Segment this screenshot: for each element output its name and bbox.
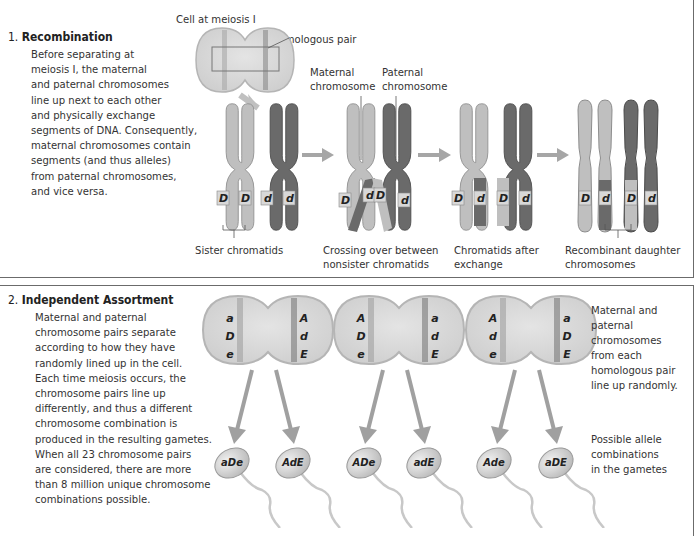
allele-label: d — [299, 330, 309, 343]
text-line: in the gametes — [591, 462, 667, 477]
text-line: line up randomly. — [591, 378, 678, 393]
svg-text:D: D — [581, 192, 590, 205]
allele-label: A — [356, 312, 366, 325]
svg-text:D: D — [499, 192, 508, 205]
text-line: Each time meiosis occurs, the — [35, 371, 212, 386]
svg-text:d: d — [602, 192, 610, 205]
svg-text:D: D — [454, 192, 463, 205]
svg-text:d: d — [286, 192, 294, 205]
svg-text:d: d — [522, 192, 530, 205]
gamete-label: Ade — [476, 457, 512, 468]
text-line: Maternal and — [591, 303, 678, 318]
allele-label: E — [299, 348, 309, 361]
allele-label: E — [430, 348, 440, 361]
text-line: from each — [591, 348, 678, 363]
independent-assortment-description: Maternal and paternal chromosome pairs s… — [35, 310, 212, 508]
text-line: produced in the resulting gametes. — [35, 432, 212, 447]
allele-label: A — [299, 312, 309, 325]
text-line: than 8 million unique chromosome — [35, 477, 212, 492]
stage1-chromosomes: D D d d — [217, 104, 298, 238]
svg-text:D: D — [376, 189, 385, 202]
random-alignment-note: Maternal and paternal chromosomes from e… — [591, 303, 678, 393]
allele-label: D — [356, 330, 366, 343]
svg-text:d: d — [264, 192, 272, 205]
gamete-label: AdE — [275, 457, 311, 468]
allele-label: D — [225, 330, 235, 343]
gamete-label: aDE — [538, 457, 574, 468]
text-line: homologous pair — [591, 363, 678, 378]
allele-label: E — [562, 348, 572, 361]
svg-text:d: d — [648, 192, 656, 205]
text-line: combinations — [591, 447, 667, 462]
text-line: paternal — [591, 318, 678, 333]
allele-label: a — [430, 312, 440, 325]
text-line: chromosome combination is — [35, 416, 212, 431]
allele-label: A — [488, 312, 498, 325]
text-line: When all 23 chromosome pairs — [35, 447, 212, 462]
gamete-label: ADe — [346, 457, 382, 468]
text-line: are considered, there are more — [35, 462, 212, 477]
section-number: 2. — [8, 293, 18, 307]
text-line: Maternal and paternal — [35, 310, 212, 325]
section-title: Independent Assortment — [22, 293, 174, 307]
allele-label: e — [356, 348, 366, 361]
allele-label: D — [562, 330, 572, 343]
svg-text:D: D — [341, 194, 350, 207]
stage3-chromosomes: D d D d — [452, 104, 532, 231]
allele-label: d — [488, 330, 498, 343]
allele-label: a — [562, 312, 572, 325]
stage4-chromosomes: D d D d — [578, 100, 658, 238]
meiosis-cell-icon — [196, 28, 294, 108]
svg-text:D: D — [241, 192, 250, 205]
allele-label: e — [225, 348, 235, 361]
svg-text:d: d — [477, 192, 485, 205]
text-line: combinations possible. — [35, 492, 212, 507]
allele-label: e — [488, 348, 498, 361]
gamete-label: aDe — [214, 457, 250, 468]
text-line: Possible allele — [591, 432, 667, 447]
allele-label: a — [225, 312, 235, 325]
svg-text:D: D — [219, 192, 228, 205]
stage2-chromosomes: D d D d — [339, 96, 411, 232]
gamete-label: adE — [406, 457, 442, 468]
text-line: chromosome pairs separate — [35, 325, 212, 340]
text-line: according to how they have — [35, 340, 212, 355]
text-line: differently, and thus a different — [35, 401, 212, 416]
text-line: chromosome pairs line up — [35, 386, 212, 401]
allele-label: d — [430, 330, 440, 343]
text-line: randomly lined up in the cell. — [35, 356, 212, 371]
allele-combinations-note: Possible allele combinations in the game… — [591, 432, 667, 477]
svg-text:d: d — [366, 189, 374, 202]
text-line: chromosomes — [591, 333, 678, 348]
independent-assortment-title: 2. Independent Assortment — [8, 293, 173, 307]
svg-text:D: D — [627, 192, 636, 205]
svg-text:d: d — [401, 194, 409, 207]
